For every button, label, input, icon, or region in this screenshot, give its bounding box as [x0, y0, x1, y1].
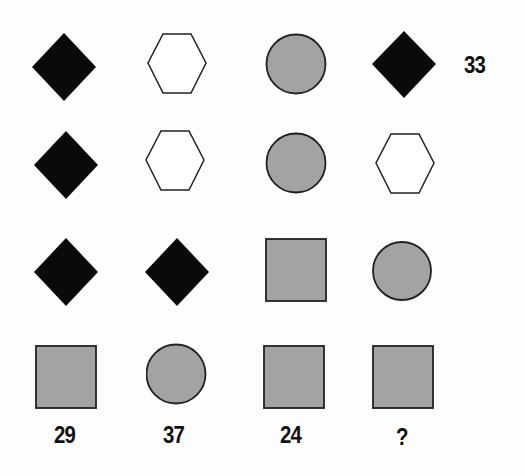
hexagon-icon: [146, 32, 208, 96]
column-total-3: 24: [280, 421, 301, 449]
circle-icon: [265, 131, 327, 195]
column-total-2: 37: [163, 421, 184, 449]
square-icon: [35, 345, 97, 409]
square-icon: [372, 345, 434, 409]
diamond-icon: [370, 30, 438, 100]
hexagon-icon: [374, 132, 436, 196]
diamond-icon: [32, 130, 100, 200]
square-icon: [263, 345, 325, 409]
column-total-4-unknown: ?: [396, 423, 408, 451]
diamond-icon: [32, 237, 100, 307]
circle-icon: [146, 342, 208, 406]
circle-icon: [265, 32, 327, 96]
diamond-icon: [30, 32, 98, 102]
diamond-icon: [143, 237, 211, 307]
square-icon: [265, 238, 327, 302]
circle-icon: [372, 240, 434, 304]
column-total-1: 29: [54, 421, 75, 449]
hexagon-icon: [144, 129, 206, 193]
row-total-1: 33: [464, 51, 485, 79]
